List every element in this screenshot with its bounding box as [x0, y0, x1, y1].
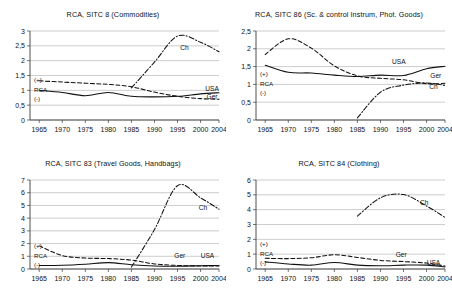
- x-tick-label: 2000: [419, 275, 435, 282]
- x-tick-label: 1980: [101, 126, 117, 133]
- y-tick-label: 5: [247, 191, 251, 198]
- x-tick-label: 1970: [280, 275, 296, 282]
- annotation-minus: (-): [260, 89, 266, 96]
- x-tick-label: 1995: [170, 275, 186, 282]
- series-line-ch: [131, 35, 219, 88]
- y-tick-label: 0: [21, 117, 25, 124]
- annotation-plus: (+): [260, 240, 268, 247]
- x-tick-label: 1985: [124, 126, 140, 133]
- x-tick-label: 1975: [304, 126, 320, 133]
- x-tick-label: 1965: [257, 275, 273, 282]
- x-tick-label: 1965: [31, 126, 47, 133]
- series-label-ch: Ch: [429, 83, 438, 90]
- x-tick-label: 1975: [78, 126, 94, 133]
- x-tick-label: 2004: [211, 126, 226, 133]
- x-tick-label: 1980: [327, 126, 343, 133]
- annotation-rca: RCA: [260, 250, 274, 257]
- y-tick-label: 1: [247, 251, 251, 258]
- x-tick-label: 1985: [350, 126, 366, 133]
- x-tick-label: 1995: [170, 126, 186, 133]
- series-label-ger: Ger: [207, 93, 219, 100]
- series-line-usa: [39, 90, 219, 97]
- y-tick-label: 2: [21, 240, 25, 247]
- series-label-usa: USA: [201, 252, 215, 259]
- x-tick-label: 1985: [124, 275, 140, 282]
- series-label-usa: USA: [205, 85, 219, 92]
- series-label-ger: Ger: [174, 252, 186, 259]
- chart-svg-sitc8: 00,511,522,53196519701975198019851990199…: [0, 0, 226, 149]
- y-tick-label: 2,5: [15, 42, 25, 49]
- annotation-rca: RCA: [34, 252, 48, 259]
- x-tick-label: 1980: [327, 275, 343, 282]
- x-tick-label: 1980: [101, 275, 117, 282]
- chart-svg-sitc83: 0123456719651970197519801985199019952000…: [0, 149, 226, 298]
- y-tick-label: 7: [21, 177, 25, 184]
- annotation-rca: RCA: [260, 80, 274, 87]
- series-label-ger: Ger: [396, 251, 408, 258]
- series-line-ger: [265, 39, 445, 84]
- y-tick-label: 1,5: [241, 63, 251, 70]
- annotation-minus: (-): [260, 259, 266, 266]
- y-tick-label: 4: [21, 215, 25, 222]
- chart-panel-sitc86: RCA, SITC 86 (Sc. & control Instrum, Pho…: [226, 0, 452, 149]
- y-tick-label: 6: [247, 177, 251, 184]
- annotation-minus: (-): [34, 95, 40, 102]
- x-tick-label: 1990: [147, 126, 163, 133]
- x-tick-label: 1965: [257, 126, 273, 133]
- y-tick-label: 2: [247, 236, 251, 243]
- x-tick-label: 1995: [396, 126, 412, 133]
- y-tick-label: 4: [247, 206, 251, 213]
- y-tick-label: 0,5: [241, 99, 251, 106]
- x-tick-label: 1970: [54, 126, 70, 133]
- series-line-ger: [39, 246, 219, 266]
- x-tick-label: 1990: [147, 275, 163, 282]
- x-tick-label: 1990: [373, 275, 389, 282]
- x-tick-label: 1970: [54, 275, 70, 282]
- chart-panel-sitc83: RCA, SITC 83 (Travel Goods, Handbags) 01…: [0, 149, 226, 298]
- annotation-plus: (+): [34, 76, 42, 83]
- x-tick-label: 1990: [373, 126, 389, 133]
- y-tick-label: 0: [247, 266, 251, 273]
- x-tick-label: 1970: [280, 126, 296, 133]
- series-label-ch: Ch: [199, 204, 208, 211]
- y-tick-label: 3: [21, 227, 25, 234]
- series-label-usa: USA: [392, 58, 406, 65]
- y-tick-label: 5: [21, 202, 25, 209]
- chart-panel-sitc8: RCA, SITC 8 (Commodities) 00,511,522,531…: [0, 0, 226, 149]
- y-tick-label: 2,5: [241, 28, 251, 35]
- figure-sheet: RCA, SITC 8 (Commodities) 00,511,522,531…: [0, 0, 452, 298]
- annotation-plus: (+): [260, 70, 268, 77]
- y-tick-label: 2: [21, 57, 25, 64]
- x-tick-label: 2004: [211, 275, 226, 282]
- x-tick-label: 1965: [31, 275, 47, 282]
- series-label-ch: Ch: [180, 44, 189, 51]
- x-tick-label: 2000: [193, 126, 209, 133]
- annotation-plus: (+): [34, 242, 42, 249]
- y-tick-label: 6: [21, 189, 25, 196]
- y-tick-label: 3: [247, 221, 251, 228]
- annotation-rca: RCA: [34, 86, 48, 93]
- y-tick-label: 1: [247, 81, 251, 88]
- x-tick-label: 1985: [350, 275, 366, 282]
- series-label-ger: Ger: [430, 72, 442, 79]
- y-tick-label: 0: [21, 266, 25, 273]
- series-line-ch: [357, 194, 445, 217]
- y-tick-label: 1: [21, 87, 25, 94]
- y-tick-label: 1: [21, 253, 25, 260]
- x-tick-label: 1975: [304, 275, 320, 282]
- chart-svg-sitc84: 0123456196519701975198019851990199520002…: [226, 149, 452, 298]
- x-tick-label: 2000: [193, 275, 209, 282]
- y-tick-label: 2: [247, 45, 251, 52]
- chart-svg-sitc86: 00,511,522,51965197019751980198519901995…: [226, 0, 452, 149]
- chart-panel-sitc84: RCA, SITC 84 (Clothing) 0123456196519701…: [226, 149, 452, 298]
- x-tick-label: 2004: [437, 275, 452, 282]
- x-tick-label: 1975: [78, 275, 94, 282]
- y-tick-label: 1,5: [15, 72, 25, 79]
- annotation-minus: (-): [34, 261, 40, 268]
- series-label-ch: Ch: [420, 199, 429, 206]
- y-tick-label: 0,5: [15, 102, 25, 109]
- y-tick-label: 0: [247, 117, 251, 124]
- x-tick-label: 2000: [419, 126, 435, 133]
- x-tick-label: 1995: [396, 275, 412, 282]
- x-tick-label: 2004: [437, 126, 452, 133]
